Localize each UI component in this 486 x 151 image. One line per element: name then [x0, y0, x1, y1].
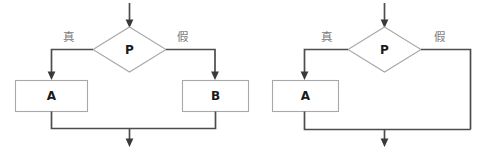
false-branch-arrowhead-left	[211, 72, 219, 81]
process-label-a-left: A	[47, 89, 57, 103]
true-branch-arrowhead-left	[48, 72, 56, 81]
false-branch-line-left	[166, 50, 215, 75]
true-branch-right	[301, 50, 348, 81]
process-label-b-left: B	[211, 89, 220, 103]
process-label-a-right: A	[301, 89, 311, 103]
decision-label-left: P	[125, 43, 134, 57]
false-branch-label-left: 假	[177, 30, 189, 44]
true-branch-line-left	[52, 50, 94, 75]
false-branch-label-right: 假	[434, 30, 446, 44]
flowchart-if-else: P 真 假 A B	[16, 3, 249, 147]
false-branch-left	[166, 50, 219, 81]
decision-label-right: P	[380, 43, 389, 57]
false-branch-line-right	[421, 50, 471, 130]
flowchart-if-only: P 真 假 A	[273, 3, 471, 147]
merge-path-left	[52, 112, 216, 148]
merge-path-right	[305, 112, 471, 148]
flowchart-canvas: P 真 假 A B	[0, 0, 486, 151]
merge-bus-left	[52, 112, 216, 129]
flowchart-diagram: P 真 假 A B	[0, 0, 486, 151]
entry-arrow-right	[381, 3, 389, 28]
entry-arrow-left	[126, 3, 134, 28]
true-branch-label-right: 真	[321, 30, 332, 44]
true-branch-label-left: 真	[63, 30, 74, 44]
exit-arrowhead-left	[126, 139, 134, 148]
exit-arrowhead-right	[381, 139, 389, 148]
true-branch-left	[48, 50, 93, 81]
true-branch-arrowhead-right	[301, 72, 309, 81]
merge-bus-right	[305, 112, 471, 130]
false-branch-right	[421, 50, 471, 130]
true-branch-line-right	[305, 50, 349, 75]
